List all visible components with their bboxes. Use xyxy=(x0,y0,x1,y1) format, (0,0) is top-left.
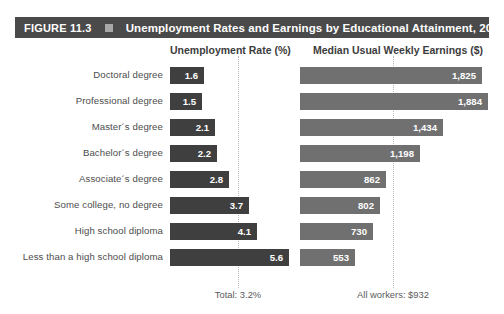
unemployment-bar: 2.2 xyxy=(170,145,217,162)
earnings-bar: 1,198 xyxy=(300,145,420,162)
earnings-bar-value: 862 xyxy=(364,171,380,188)
figure-title: Unemployment Rates and Earnings by Educa… xyxy=(126,22,504,34)
earnings-bar-value: 1,884 xyxy=(458,93,482,110)
earnings-bar: 1,825 xyxy=(300,67,482,84)
unemployment-bar: 1.5 xyxy=(170,93,202,110)
unemployment-bar-value: 2.1 xyxy=(196,119,209,136)
unemployment-bar-value: 1.5 xyxy=(183,93,196,110)
earnings-bar: 553 xyxy=(300,249,355,266)
square-bullet-icon xyxy=(105,24,113,32)
category-label: Some college, no degree xyxy=(0,192,163,218)
earnings-bar: 862 xyxy=(300,171,386,188)
unemployment-bar-value: 1.6 xyxy=(185,67,198,84)
unemployment-bar: 4.1 xyxy=(170,223,257,240)
column-header-unemployment: Unemployment Rate (%) xyxy=(170,44,290,56)
unemployment-bar: 5.6 xyxy=(170,249,289,266)
earnings-bar-value: 1,198 xyxy=(390,145,414,162)
earnings-bar: 802 xyxy=(300,197,380,214)
chart-row: Doctoral degree1.61,825 xyxy=(0,62,504,88)
earnings-bar-value: 1,825 xyxy=(452,67,476,84)
unemployment-bar: 1.6 xyxy=(170,67,204,84)
earnings-bar: 1,434 xyxy=(300,119,443,136)
earnings-bar: 730 xyxy=(300,223,373,240)
unemployment-bar-value: 4.1 xyxy=(238,223,251,240)
unemployment-bar-value: 2.2 xyxy=(198,145,211,162)
earnings-bar-value: 1,434 xyxy=(413,119,437,136)
category-label: Less than a high school diploma xyxy=(0,244,163,270)
category-label: Associate´s degree xyxy=(0,166,163,192)
chart-row: Less than a high school diploma5.6553 xyxy=(0,244,504,270)
category-label: High school diploma xyxy=(0,218,163,244)
chart-plot-area: Doctoral degree1.61,825Professional degr… xyxy=(0,62,504,284)
category-label: Professional degree xyxy=(0,88,163,114)
earnings-bar-value: 730 xyxy=(351,223,367,240)
footnote-all-workers: All workers: $932 xyxy=(357,289,429,300)
unemployment-bar: 2.8 xyxy=(170,171,229,188)
footnote-total: Total: 3.2% xyxy=(215,289,261,300)
unemployment-bar: 3.7 xyxy=(170,197,249,214)
chart-row: High school diploma4.1730 xyxy=(0,218,504,244)
chart-row: Some college, no degree3.7802 xyxy=(0,192,504,218)
earnings-bar: 1,884 xyxy=(300,93,488,110)
earnings-bar-value: 802 xyxy=(358,197,374,214)
figure-number: FIGURE 11.3 xyxy=(24,22,92,34)
chart-row: Associate´s degree2.8862 xyxy=(0,166,504,192)
chart-row: Professional degree1.51,884 xyxy=(0,88,504,114)
category-label: Master´s degree xyxy=(0,114,163,140)
earnings-bar-value: 553 xyxy=(333,249,349,266)
unemployment-bar-value: 5.6 xyxy=(270,249,283,266)
chart-row: Bachelor´s degree2.21,198 xyxy=(0,140,504,166)
unemployment-bar-value: 3.7 xyxy=(230,197,243,214)
unemployment-bar: 2.1 xyxy=(170,119,215,136)
column-header-earnings: Median Usual Weekly Earnings ($) xyxy=(300,44,496,56)
unemployment-bar-value: 2.8 xyxy=(210,171,223,188)
chart-row: Master´s degree2.11,434 xyxy=(0,114,504,140)
figure-header: FIGURE 11.3 Unemployment Rates and Earni… xyxy=(15,17,489,38)
category-label: Doctoral degree xyxy=(0,62,163,88)
figure-container: FIGURE 11.3 Unemployment Rates and Earni… xyxy=(0,0,504,314)
category-label: Bachelor´s degree xyxy=(0,140,163,166)
